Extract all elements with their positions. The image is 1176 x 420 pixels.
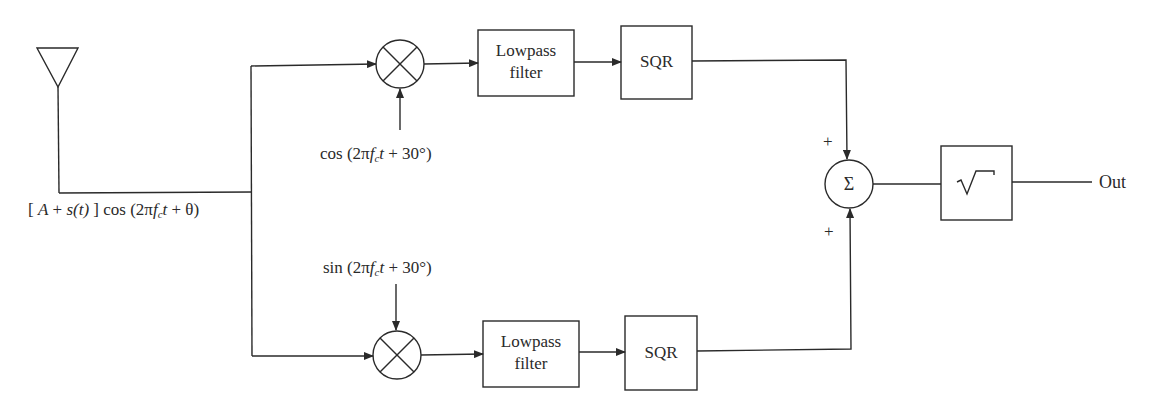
bottom-lowpass-filter-label: Lowpass filter (483, 331, 579, 375)
bottom-sum-sign: + (824, 222, 834, 242)
split-wire (251, 66, 252, 356)
top-mixer-to-filter-arrow (424, 63, 478, 64)
top-mixer-input-arrow (251, 64, 376, 66)
top-sqr-label: SQR (621, 51, 692, 73)
top-lowpass-filter-label: Lowpass filter (478, 40, 574, 84)
sqrt-icon (957, 171, 994, 194)
bottom-mixer-to-filter-arrow (421, 354, 483, 355)
output-label: Out (1099, 172, 1126, 193)
input-wire (59, 192, 252, 193)
antenna-icon (37, 48, 78, 193)
top-sum-sign: + (823, 132, 833, 152)
top-multiplier-icon (376, 40, 424, 88)
bottom-multiplier-icon (373, 331, 421, 379)
summer-sigma-label: Σ (835, 173, 863, 195)
bottom-sqr-label: SQR (625, 342, 697, 364)
bottom-oscillator-label: sin (2πfct + 30°) (323, 258, 432, 278)
sqrt-box (941, 146, 1012, 220)
input-signal-label: [ A + s(t) ] cos (2πfct + θ) (28, 200, 199, 220)
top-oscillator-label: cos (2πfct + 30°) (320, 144, 432, 164)
